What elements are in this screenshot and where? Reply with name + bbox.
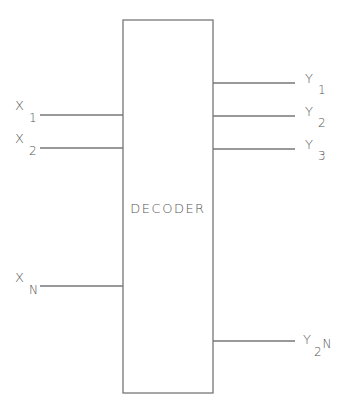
input-label-x2: X2 [15, 131, 37, 158]
input-label-x1: X1 [15, 98, 37, 125]
decoder-diagram: DECODER X1 X2 XN Y1 Y2 Y3 Y2N [0, 0, 344, 407]
output-label-y2n: Y2N [303, 332, 332, 359]
input-label-xn: XN [15, 270, 38, 297]
decoder-label: DECODER [130, 201, 205, 216]
output-label-y3: Y3 [305, 137, 326, 163]
output-label-y2: Y2 [305, 104, 326, 130]
output-label-y1: Y1 [305, 71, 326, 97]
